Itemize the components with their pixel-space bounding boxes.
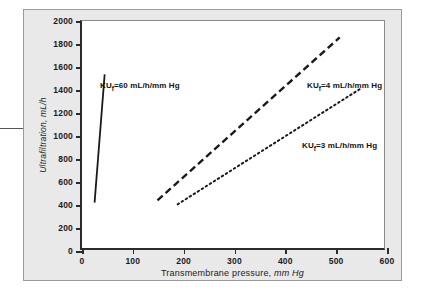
x-tick-label-300: 300 [227, 256, 242, 266]
x-tick-label-600: 600 [380, 256, 395, 266]
y-tick-label-1000: 1000 [53, 131, 73, 141]
series-label-suffix: =4 mL/h/mm Hg [321, 81, 382, 90]
y-tick-mark [76, 113, 82, 115]
y-tick-mark [76, 90, 82, 92]
y-tick-mark [76, 205, 82, 207]
y-tick-label-200: 200 [58, 223, 73, 233]
series-label-kuf-60: KUf=60 mL/h/mm Hg [100, 81, 180, 92]
series-canvas [82, 21, 384, 248]
series-label-suffix: =60 mL/h/mm Hg [114, 81, 180, 90]
x-tick-mark [133, 248, 135, 254]
x-tick-mark [82, 248, 84, 254]
y-tick-label-800: 800 [58, 154, 73, 164]
y-tick-label-2000: 2000 [53, 16, 73, 26]
y-tick-mark [76, 228, 82, 230]
series-line-kuf-4 [158, 37, 340, 200]
x-tick-mark [285, 248, 287, 254]
x-tick-mark [336, 248, 338, 254]
y-tick-mark [76, 182, 82, 184]
y-axis-title: Ultrafiltration, mL/h [38, 97, 48, 173]
series-label-kuf-4: KUf=4 mL/h/mm Hg [307, 81, 382, 92]
series-label-prefix: KU [302, 141, 314, 150]
series-label-kuf-3: KUf=3 mL/h/mm Hg [302, 141, 377, 152]
x-tick-mark [184, 248, 186, 254]
y-tick-label-1600: 1600 [53, 62, 73, 72]
y-tick-label-400: 400 [58, 200, 73, 210]
y-tick-label-1400: 1400 [53, 85, 73, 95]
plot-area: 0200400600800100012001400160018002000 01… [80, 20, 385, 250]
y-tick-mark [76, 21, 82, 23]
x-tick-mark [235, 248, 237, 254]
y-tick-mark [76, 44, 82, 46]
x-axis-title-unit: mm Hg [274, 268, 304, 278]
series-label-prefix: KU [100, 81, 112, 90]
y-tick-label-0: 0 [68, 246, 73, 256]
x-tick-label-500: 500 [329, 256, 344, 266]
x-tick-label-100: 100 [125, 256, 140, 266]
y-tick-mark [76, 67, 82, 69]
x-tick-label-200: 200 [176, 256, 191, 266]
y-tick-mark [76, 159, 82, 161]
series-label-suffix: =3 mL/h/mm Hg [316, 141, 377, 150]
x-tick-label-400: 400 [278, 256, 293, 266]
y-tick-label-600: 600 [58, 177, 73, 187]
y-tick-mark [76, 136, 82, 138]
series-line-kuf-60 [95, 74, 105, 202]
series-label-prefix: KU [307, 81, 319, 90]
x-tick-label-0: 0 [80, 256, 85, 266]
y-tick-label-1800: 1800 [53, 39, 73, 49]
x-axis-title: Transmembrane pressure, mm Hg [80, 268, 385, 278]
x-tick-mark [387, 248, 389, 254]
x-axis-title-text: Transmembrane pressure, [161, 268, 271, 278]
figure-container: Ultrafiltration, mL/h Transmembrane pres… [0, 0, 423, 290]
y-tick-label-1200: 1200 [53, 108, 73, 118]
